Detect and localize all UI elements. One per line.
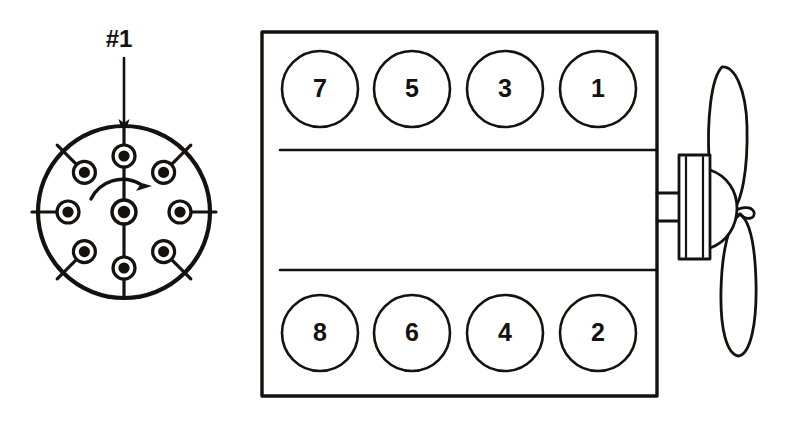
engine-block: 7 5 3 1 8 (262, 32, 657, 396)
distributor-cap: #1 (32, 25, 216, 298)
fan-pulley (679, 155, 710, 259)
terminal-lower-left (73, 241, 95, 263)
center-coil-terminal (112, 200, 136, 224)
cylinder-8: 8 (282, 295, 358, 371)
terminal-left (57, 201, 79, 223)
cylinder-2: 2 (560, 295, 636, 371)
number-one-pointer-label: #1 (106, 25, 133, 52)
cylinder-4: 4 (467, 295, 543, 371)
cylinder-6: 6 (374, 295, 450, 371)
terminal-bottom (113, 257, 135, 279)
cylinder-1-label: 1 (591, 74, 605, 102)
cylinder-6-label: 6 (405, 318, 419, 346)
cylinder-7: 7 (282, 51, 358, 127)
cylinder-5: 5 (374, 51, 450, 127)
cylinder-1: 1 (560, 51, 636, 127)
terminal-upper-right (153, 161, 175, 183)
cylinder-3-label: 3 (498, 74, 512, 102)
cylinder-8-label: 8 (313, 318, 327, 346)
fan-drive-shaft (657, 193, 680, 221)
engine-firing-order-diagram: #1 (0, 0, 799, 422)
cylinder-2-label: 2 (591, 318, 605, 346)
terminal-lower-right (153, 241, 175, 263)
diagram-canvas: #1 (0, 0, 799, 422)
cooling-fan-assembly (657, 67, 756, 356)
terminal-right (169, 201, 191, 223)
cylinder-3: 3 (467, 51, 543, 127)
cylinder-4-label: 4 (498, 318, 512, 346)
cylinder-5-label: 5 (405, 74, 419, 102)
terminal-upper-left (73, 161, 95, 183)
cylinder-7-label: 7 (313, 74, 327, 102)
terminal-top (113, 145, 135, 167)
